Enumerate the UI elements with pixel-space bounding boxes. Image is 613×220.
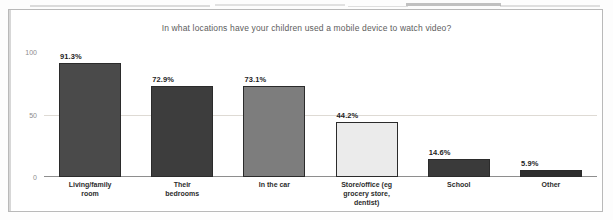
- bar-slot: 91.3%: [44, 52, 136, 177]
- x-axis-category-label: Living/familyroom: [44, 180, 136, 207]
- bar-value-label: 5.9%: [521, 159, 539, 168]
- y-axis-tick-label: 0: [33, 174, 37, 181]
- x-axis-labels: Living/familyroomTheirbedroomsIn the car…: [44, 180, 597, 207]
- y-axis-tick-label: 100: [25, 49, 37, 56]
- bar-value-label: 73.1%: [244, 75, 266, 84]
- bar-slot: 72.9%: [136, 52, 228, 177]
- bar-value-label: 14.6%: [429, 148, 451, 157]
- x-axis-category-label: Other: [505, 180, 597, 207]
- chart-title: In what locations have your children use…: [0, 23, 613, 33]
- bar: 44.2%: [336, 122, 398, 177]
- bar-slot: 14.6%: [413, 52, 505, 177]
- bar-value-label: 91.3%: [60, 52, 82, 61]
- bar: 73.1%: [243, 86, 305, 177]
- bar-slot: 44.2%: [321, 52, 413, 177]
- bar-slot: 73.1%: [228, 52, 320, 177]
- scan-artifact: [406, 3, 501, 6]
- x-axis-category-label: School: [413, 180, 505, 207]
- plot-area: 100500 91.3%72.9%73.1%44.2%14.6%5.9%: [44, 52, 597, 177]
- scan-artifact: [215, 4, 345, 6]
- x-axis-category-label: In the car: [228, 180, 320, 207]
- bar-value-label: 44.2%: [337, 111, 359, 120]
- bar: 14.6%: [428, 159, 490, 177]
- bar-series: 91.3%72.9%73.1%44.2%14.6%5.9%: [44, 52, 597, 177]
- scan-artifact: [30, 5, 210, 7]
- scan-artifact: [500, 5, 600, 7]
- bar: 72.9%: [151, 86, 213, 177]
- bar-slot: 5.9%: [505, 52, 597, 177]
- chart-screenshot: In what locations have your children use…: [0, 0, 613, 220]
- x-axis-category-label: Store/office (eggrocery store,dentist): [321, 180, 413, 207]
- bar: 91.3%: [59, 63, 121, 177]
- bar: 5.9%: [520, 170, 582, 177]
- bar-value-label: 72.9%: [152, 75, 174, 84]
- x-axis-category-label: Theirbedrooms: [136, 180, 228, 207]
- scan-artifact: [348, 6, 408, 7]
- chart-frame-left-edge: [9, 10, 11, 211]
- y-axis-tick-label: 50: [29, 111, 37, 118]
